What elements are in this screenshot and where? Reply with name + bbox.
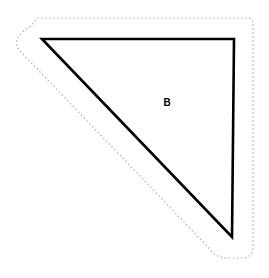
canvas-background — [0, 0, 269, 278]
shape-diagram: B — [0, 0, 269, 278]
figure-canvas: B — [0, 0, 269, 278]
shape-label-b: B — [163, 97, 170, 108]
